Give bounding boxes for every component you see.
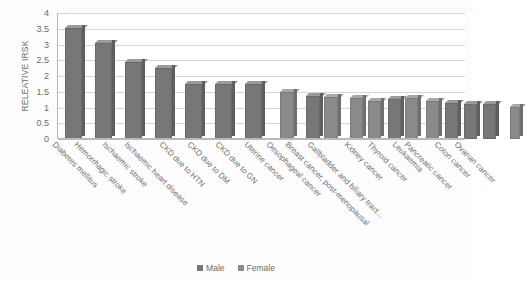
y-axis-tick-labels: 43.532.521.510.50 — [0, 13, 53, 139]
y-tick-label: 0 — [44, 135, 49, 144]
bar-series-group — [58, 13, 465, 139]
bar-side-face — [112, 40, 115, 136]
x-axis-line — [58, 138, 465, 139]
y-tick-label: 3 — [44, 40, 49, 49]
bar-side-face — [172, 65, 175, 136]
bar-front-face — [95, 43, 112, 139]
bar-front-face — [185, 84, 202, 139]
bar-side-face — [262, 81, 265, 136]
bar-side-face — [418, 95, 421, 136]
y-tick-label: 4 — [44, 9, 49, 18]
y-tick-label: 2.5 — [36, 56, 49, 65]
x-axis-category-labels: Diabetes mellitusHemorrhagic strokeIscha… — [57, 140, 465, 250]
bar-front-face — [65, 28, 82, 139]
bar-side-face — [439, 98, 442, 136]
bar-front-face — [483, 104, 496, 139]
bar-male — [388, 96, 404, 139]
bar-side-face — [202, 81, 205, 136]
bar-female — [324, 94, 341, 139]
bar-front-face — [426, 101, 439, 139]
y-tick-label: 1 — [44, 103, 49, 112]
legend-swatch-icon — [197, 265, 203, 271]
plot-area — [57, 13, 465, 139]
legend-swatch-icon — [238, 265, 244, 271]
bar-side-face — [320, 93, 323, 136]
bar-front-face — [464, 104, 477, 139]
bar-side-face — [82, 25, 85, 136]
plot-area-wrapper — [57, 13, 465, 139]
bar-front-face — [306, 96, 320, 139]
bar-male — [185, 81, 205, 139]
bar-front-face — [125, 62, 142, 139]
bar-female — [368, 98, 384, 139]
bar-front-face — [324, 97, 338, 139]
legend-label: Female — [247, 263, 275, 273]
bar-side-face — [338, 94, 341, 136]
bar-front-face — [280, 92, 294, 139]
bar-male — [65, 25, 85, 139]
bar-male — [464, 101, 480, 139]
bar-front-face — [350, 98, 363, 139]
bar-front-face — [405, 98, 418, 139]
bar-male — [155, 65, 175, 139]
bar-side-face — [477, 101, 480, 136]
bar-front-face — [388, 99, 401, 139]
chart-legend: MaleFemale — [0, 263, 472, 273]
bar-male — [95, 40, 115, 139]
bar-male — [483, 101, 499, 139]
bar-front-face — [155, 68, 172, 139]
bar-female — [426, 98, 442, 139]
bar-front-face — [368, 101, 381, 139]
bar-female — [510, 104, 523, 139]
bar-front-face — [445, 103, 458, 139]
bar-female — [280, 89, 297, 139]
bar-female — [405, 95, 421, 139]
bar-side-face — [496, 101, 499, 136]
y-tick-label: 3.5 — [36, 24, 49, 33]
bar-side-face — [142, 59, 145, 136]
legend-item-male[interactable]: Male — [197, 263, 224, 273]
y-tick-label: 1.5 — [36, 87, 49, 96]
bar-side-face — [381, 98, 384, 136]
bar-female — [350, 95, 366, 139]
bar-side-face — [363, 95, 366, 136]
bar-side-face — [458, 100, 461, 136]
bar-side-face — [401, 96, 404, 136]
y-tick-label: 0.5 — [36, 119, 49, 128]
bar-male — [245, 81, 265, 139]
y-tick-label: 2 — [44, 72, 49, 81]
bar-side-face — [294, 89, 297, 136]
bar-front-face — [510, 107, 520, 139]
legend-label: Male — [206, 263, 224, 273]
bar-male — [445, 100, 461, 139]
bar-male — [125, 59, 145, 139]
legend-item-female[interactable]: Female — [238, 263, 275, 273]
bar-side-face — [520, 104, 523, 136]
bar-male — [215, 81, 235, 139]
bar-side-face — [232, 81, 235, 136]
bar-front-face — [245, 84, 262, 139]
bar-male — [306, 93, 323, 139]
bar-front-face — [215, 84, 232, 139]
